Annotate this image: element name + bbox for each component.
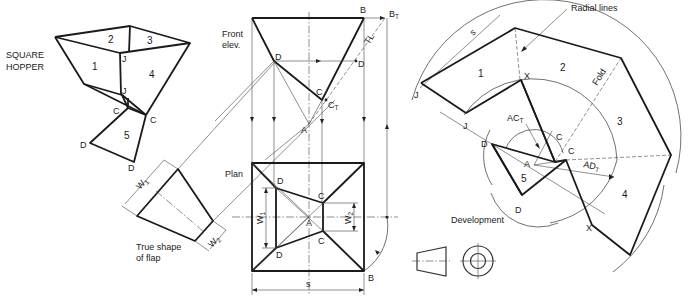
- hopper-point-c1: C: [113, 106, 120, 116]
- dev-radial-lines-label: Radial lines: [571, 3, 618, 13]
- dev-point-a: A: [524, 159, 530, 169]
- plan-w1-label: W1: [255, 212, 266, 225]
- plan-point-c-bot: C: [318, 236, 325, 246]
- front-elevation: Front elev. B BT TL D D: [215, 5, 399, 295]
- dev-ad-t-label: ADT: [582, 159, 600, 173]
- front-point-b: B: [360, 5, 366, 15]
- dev-point-d2: D: [515, 205, 522, 215]
- front-point-ct: CT: [328, 100, 339, 111]
- hopper-face-3: 3: [147, 35, 153, 46]
- hopper-face-2: 2: [108, 34, 114, 45]
- dev-face-4: 4: [622, 189, 628, 200]
- dev-point-x1: X: [524, 71, 530, 81]
- plan-point-d-top: D: [277, 176, 284, 186]
- hopper-development-diagram: SQUARE HOPPER 2 3 1 4 5 J J C C D D W: [0, 0, 688, 299]
- plan-caption: Plan: [225, 169, 243, 179]
- front-point-d1: D: [275, 52, 282, 62]
- dev-face-5: 5: [521, 173, 527, 184]
- front-point-bt: BT: [389, 9, 399, 20]
- plan-s-label: s: [306, 279, 311, 289]
- front-elev-caption-line2: elev.: [222, 40, 240, 50]
- hopper-point-d1: D: [80, 140, 87, 150]
- hopper-point-j2: J: [122, 86, 127, 96]
- hopper-point-j1: J: [122, 54, 127, 64]
- flap-w2-label: W2: [206, 233, 223, 250]
- front-tl-label: TL: [362, 32, 376, 46]
- hopper-face-4: 4: [149, 69, 155, 80]
- hopper-title-line2: HOPPER: [6, 62, 45, 72]
- hopper-face-1: 1: [92, 61, 98, 72]
- third-angle-projection-icon: [412, 243, 496, 279]
- dev-face-3: 3: [617, 116, 623, 127]
- front-point-c: C: [316, 87, 323, 97]
- dev-face-1: 1: [478, 68, 484, 79]
- dev-point-j1: J: [414, 90, 419, 100]
- dev-point-c2: C: [568, 146, 575, 156]
- plan-point-a: A: [306, 218, 312, 228]
- plan-w2-label: W2: [343, 212, 354, 225]
- dev-point-j2: J: [463, 121, 468, 131]
- plan-point-c-top: C: [318, 191, 325, 201]
- dev-point-x2: X: [586, 223, 592, 233]
- dev-point-c1: C: [556, 132, 563, 142]
- plan-point-d-bot: D: [276, 250, 283, 260]
- dev-fold-label: Fold: [590, 67, 608, 87]
- hopper-title-line1: SQUARE: [6, 50, 44, 60]
- plan-point-b: B: [368, 273, 374, 283]
- hopper-point-d2: D: [128, 163, 135, 173]
- dev-point-d1: D: [481, 139, 488, 149]
- front-point-d2: D: [358, 59, 365, 69]
- hopper-point-c2: C: [150, 115, 157, 125]
- dev-face-2: 2: [560, 62, 566, 73]
- flap-caption-line2: of flap: [136, 253, 161, 263]
- front-elev-caption-line1: Front: [222, 29, 244, 39]
- plan-view: Plan W1 W2 s: [225, 163, 398, 295]
- development-view: s Radial lines Fold 1 2 3 4 5 J J X X C …: [412, 0, 681, 272]
- square-hopper-pictorial: SQUARE HOPPER 2 3 1 4 5 J J C C D D: [6, 26, 190, 173]
- dev-caption: Development: [451, 215, 505, 225]
- hopper-face-5: 5: [124, 130, 130, 141]
- dev-ac-t-label: ACT: [507, 113, 524, 124]
- front-point-a: A: [301, 125, 307, 135]
- flap-caption-line1: True shape: [136, 242, 181, 252]
- dev-s-label: s: [468, 27, 478, 38]
